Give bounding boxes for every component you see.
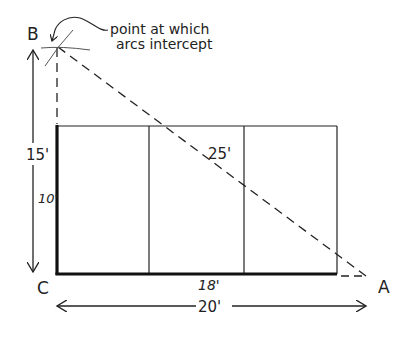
dimension-label-25ft: 25' [208, 145, 231, 163]
triangle-layout-diagram: B C A point at which arcs intercept 15' … [0, 0, 411, 343]
point-label-b: B [27, 24, 39, 44]
dimension-label-20ft: 20' [198, 298, 221, 316]
dimension-label-15ft: 15' [26, 146, 49, 164]
rectangle-outline [56, 126, 337, 274]
callout-leader [52, 17, 108, 41]
arc-intercept-marks [41, 30, 90, 66]
annotation-line-2: arcs intercept [116, 36, 213, 52]
dimension-label-10ft: 10' [38, 191, 58, 206]
dimension-label-18ft: 18' [198, 277, 220, 293]
point-label-a: A [378, 277, 390, 297]
point-label-c: C [37, 278, 49, 298]
annotation-line-1: point at which [110, 21, 209, 37]
